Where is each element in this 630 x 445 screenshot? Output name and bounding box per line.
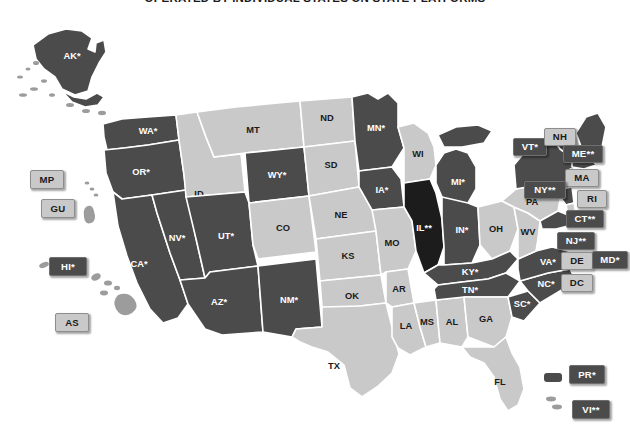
callout-md[interactable]: MD* (592, 251, 628, 269)
callout-mp[interactable]: MP (30, 170, 64, 189)
state-wi[interactable]: WI (398, 123, 436, 183)
state-or[interactable]: OR* (104, 140, 186, 199)
state-in[interactable]: IN* (442, 197, 480, 265)
callout-me[interactable]: ME** (563, 145, 603, 163)
callout-gu[interactable]: GU (41, 199, 75, 218)
state-nd[interactable]: ND (300, 97, 355, 147)
state-wy[interactable]: WY* (245, 147, 309, 203)
state-fl[interactable]: FL (462, 337, 524, 411)
state-ks[interactable]: KS (316, 231, 381, 281)
state-oh[interactable]: OH (478, 201, 518, 259)
state-nm[interactable]: NM* (258, 259, 322, 337)
state-al[interactable]: AL (436, 297, 468, 347)
callout-ri[interactable]: RI (577, 190, 607, 208)
callout-as[interactable]: AS (55, 313, 89, 332)
callout-nj[interactable]: NJ** (557, 232, 595, 250)
state-co[interactable]: CO (249, 196, 316, 259)
state-label-tx: TX (328, 361, 341, 371)
us-map: AK* WA* OR* (0, 7, 630, 445)
callout-hi[interactable]: HI* (49, 257, 87, 276)
callout-vi[interactable]: VI** (572, 400, 610, 419)
callout-vt[interactable]: VT* (513, 138, 547, 156)
figure-title: OPERATED BY INDIVIDUAL STATES ON STATE P… (145, 0, 486, 4)
callout-pr[interactable]: PR* (569, 365, 605, 384)
callout-de[interactable]: DE (561, 252, 593, 270)
state-ar[interactable]: AR (386, 269, 414, 307)
us-map-svg: AK* WA* OR* (0, 7, 630, 445)
figure-title-band: OPERATED BY INDIVIDUAL STATES ON STATE P… (0, 0, 630, 7)
callout-ma[interactable]: MA (565, 169, 599, 187)
marianas-islands (84, 181, 99, 223)
state-mn[interactable]: MN* (352, 93, 404, 171)
callout-nh[interactable]: NH (544, 128, 576, 146)
map-figure: OPERATED BY INDIVIDUAL STATES ON STATE P… (0, 0, 630, 445)
callout-ny[interactable]: NY** (524, 181, 566, 199)
callout-ct[interactable]: CT** (566, 210, 604, 228)
callout-dc[interactable]: DC (561, 274, 593, 292)
caribbean-islands (544, 373, 562, 409)
state-ak[interactable]: AK* (33, 29, 106, 107)
state-mi[interactable]: MI* (436, 125, 492, 207)
